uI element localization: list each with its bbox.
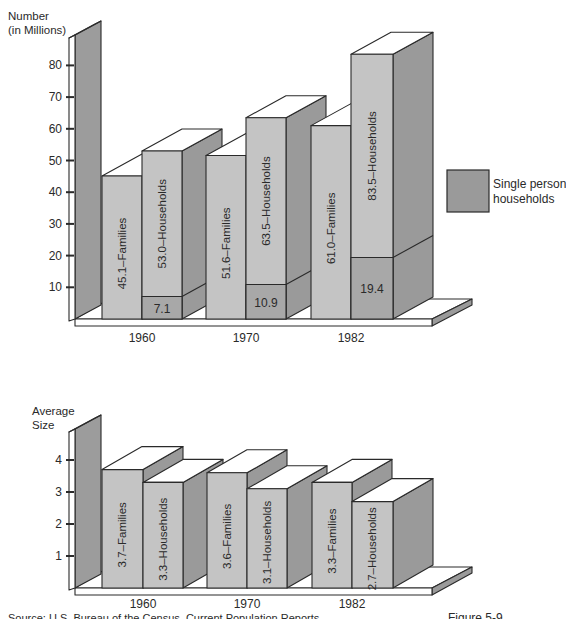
x-category-label: 1982 bbox=[338, 331, 365, 345]
households-bar-label: 63.5–Households bbox=[260, 156, 272, 246]
families-bar-label: 61.0–Families bbox=[325, 192, 337, 264]
x-category-label: 1970 bbox=[234, 597, 261, 611]
y-axis-label: Number bbox=[8, 10, 49, 22]
x-category-label: 1960 bbox=[130, 597, 157, 611]
single-person-value: 19.4 bbox=[360, 282, 384, 296]
y-tick-label: 50 bbox=[49, 154, 63, 168]
y-tick-label: 30 bbox=[49, 217, 63, 231]
source-note: Source: U.S. Bureau of the Census, Curre… bbox=[8, 612, 320, 619]
x-category-label: 1960 bbox=[129, 331, 156, 345]
bar-group-1970: 3.6–Families3.1–Households bbox=[207, 450, 327, 588]
bar-group-1982: 3.3–Families2.7–Households bbox=[312, 459, 433, 590]
single-person-value: 10.9 bbox=[254, 296, 278, 310]
floor-front bbox=[75, 319, 432, 326]
legend-swatch-single-person bbox=[447, 170, 489, 212]
y-tick-label: 20 bbox=[49, 249, 63, 263]
single-person-value: 7.1 bbox=[154, 302, 171, 316]
chart-number-in-millions: Number(in Millions)102030405060708045.1–… bbox=[8, 10, 566, 345]
figure-number: Figure 5-9 bbox=[448, 611, 503, 619]
households-bar-label: 3.1–Households bbox=[261, 501, 273, 584]
y-tick-label: 40 bbox=[49, 185, 63, 199]
y-tick-label: 2 bbox=[55, 517, 62, 531]
families-bar-label: 3.7–Families bbox=[117, 502, 129, 567]
households-bar-label: 53.0–Households bbox=[156, 179, 168, 269]
y-tick-label: 3 bbox=[55, 485, 62, 499]
families-bar-label: 3.6–Families bbox=[221, 504, 233, 569]
y-tick-label: 10 bbox=[49, 280, 63, 294]
axis-wall-face bbox=[75, 21, 101, 319]
families-bar-label: 3.3–Families bbox=[326, 508, 338, 573]
bar-group-1970: 51.6–Families10.963.5–Households bbox=[206, 96, 326, 319]
x-category-label: 1970 bbox=[233, 331, 260, 345]
axis-wall-face bbox=[75, 415, 101, 588]
y-tick-label: 4 bbox=[55, 453, 62, 467]
households-bar-side bbox=[393, 32, 433, 319]
households-bar-label: 3.3–Households bbox=[157, 497, 169, 580]
y-tick-label: 70 bbox=[49, 90, 63, 104]
y-tick-label: 60 bbox=[49, 122, 63, 136]
y-tick-label: 1 bbox=[55, 549, 62, 563]
axis-wall-edge bbox=[69, 35, 75, 321]
bar-group-1960: 3.7–Families3.3–Households bbox=[102, 447, 223, 588]
legend: Single personhouseholds bbox=[447, 170, 566, 212]
figure-footer: Source: U.S. Bureau of the Census, Curre… bbox=[8, 611, 503, 619]
axis-wall-edge bbox=[69, 429, 75, 590]
legend-label: Single person bbox=[493, 177, 566, 191]
y-axis-label: Average bbox=[32, 405, 75, 417]
households-bar-label: 83.5–Households bbox=[366, 111, 378, 201]
figure-canvas: Number(in Millions)102030405060708045.1–… bbox=[0, 0, 566, 619]
legend-label: households bbox=[493, 192, 554, 206]
y-axis-label: (in Millions) bbox=[8, 24, 66, 36]
y-tick-label: 80 bbox=[49, 58, 63, 72]
families-bar-label: 51.6–Families bbox=[220, 207, 232, 279]
bar-group-1960: 45.1–Families7.153.0–Households bbox=[102, 129, 222, 319]
bar-group-1982: 61.0–Families19.483.5–Households bbox=[311, 32, 433, 319]
families-bar-label: 45.1–Families bbox=[116, 217, 128, 289]
y-axis-label: Size bbox=[32, 419, 54, 431]
households-bar-label: 2.7–Households bbox=[367, 507, 379, 590]
x-category-label: 1982 bbox=[339, 597, 366, 611]
chart-average-size: AverageSize12343.7–Families3.3–Household… bbox=[32, 405, 472, 611]
